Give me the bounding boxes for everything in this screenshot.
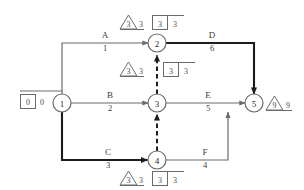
node-1[interactable]: 1 xyxy=(53,94,71,112)
edge-activity-A-duration: 1 xyxy=(103,43,107,53)
annotation-start-outer-value: 0 xyxy=(40,98,44,107)
annotation-node-2-square-outer: 3 xyxy=(173,20,177,29)
edge-activity-E-name: E xyxy=(205,90,211,100)
node-4-label: 4 xyxy=(155,156,160,166)
edge-activity-B-duration: 2 xyxy=(108,103,112,113)
annotation-node-5-outer-value: 9 xyxy=(286,101,290,110)
annotation-node-3-square-inner: 3 xyxy=(169,67,173,76)
annotation-node-5: 9 9 xyxy=(266,96,292,111)
edge-activity-C: C 3 xyxy=(62,111,148,170)
annotation-node-5-inner-value: 9 xyxy=(273,101,277,110)
node-5-label: 5 xyxy=(252,99,257,109)
annotation-node-2-triangle-outer: 3 xyxy=(139,20,143,29)
annotation-node-4-square-outer: 3 xyxy=(173,176,177,185)
network-diagram-canvas: A 1 B 2 C 3 D 6 E 5 F xyxy=(0,0,304,190)
edge-activity-F-name: F xyxy=(202,147,207,157)
annotation-node-3-triangle-outer: 3 xyxy=(139,67,143,76)
edge-activity-A-name: A xyxy=(102,30,109,40)
edge-activity-D-name: D xyxy=(209,30,216,40)
annotation-node-2: 3 3 3 3 xyxy=(120,15,184,30)
edge-activity-E: E 5 xyxy=(166,90,246,113)
node-4[interactable]: 4 xyxy=(148,151,166,169)
edge-activity-C-name: C xyxy=(105,147,111,157)
annotation-node-4-triangle-outer: 3 xyxy=(139,176,143,185)
node-2-label: 2 xyxy=(155,39,160,49)
annotation-node-2-triangle-inner: 3 xyxy=(127,20,131,29)
edge-activity-A: A 1 xyxy=(62,30,149,95)
edge-activity-C-duration: 3 xyxy=(106,160,110,170)
edge-activity-B-name: B xyxy=(107,90,113,100)
edge-activity-B: B 2 xyxy=(71,90,149,113)
network-diagram: A 1 B 2 C 3 D 6 E 5 F xyxy=(0,0,304,190)
annotation-node-3-triangle-inner: 3 xyxy=(127,67,131,76)
node-1-label: 1 xyxy=(60,99,65,109)
annotation-start-inner-value: 0 xyxy=(26,98,30,107)
annotation-node-2-square-inner: 3 xyxy=(158,20,162,29)
edge-activity-F-duration: 4 xyxy=(203,160,208,170)
node-5[interactable]: 5 xyxy=(245,94,263,112)
edge-activity-E-duration: 5 xyxy=(206,103,210,113)
annotation-node-4-square-inner: 3 xyxy=(158,176,162,185)
edge-activity-F: F 4 xyxy=(166,112,228,170)
annotation-node-4: 3 3 3 3 xyxy=(120,171,184,186)
node-3[interactable]: 3 xyxy=(148,94,166,112)
node-3-label: 3 xyxy=(155,99,160,109)
edge-activity-D-duration: 6 xyxy=(210,43,214,53)
annotation-node-3-square-outer: 3 xyxy=(184,67,188,76)
annotation-node-4-triangle-inner: 3 xyxy=(127,176,131,185)
node-2[interactable]: 2 xyxy=(148,34,166,52)
edge-activity-F-line xyxy=(166,112,228,160)
